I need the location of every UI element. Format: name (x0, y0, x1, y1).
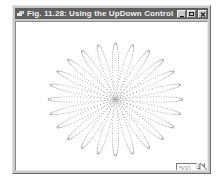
app-window: Fig. 11.28: Using the UpDown Control (12, 5, 211, 174)
window-title: Fig. 11.28: Using the UpDown Control (27, 8, 173, 19)
mouse-pointer-icon (199, 162, 208, 171)
maximize-button[interactable] (187, 10, 196, 18)
close-icon (199, 11, 208, 19)
minimize-button[interactable] (177, 10, 186, 18)
drawing-area[interactable]: 500 (15, 21, 208, 171)
close-button[interactable] (198, 10, 207, 18)
window-controls (177, 10, 207, 18)
updown-value-field[interactable]: 500 (176, 163, 197, 171)
arrow-down-icon (199, 170, 205, 171)
minimize-icon (178, 11, 187, 19)
rose-curve-drawing (16, 22, 208, 171)
maximize-icon (188, 11, 197, 19)
title-bar[interactable]: Fig. 11.28: Using the UpDown Control (15, 8, 208, 19)
app-icon[interactable] (17, 11, 24, 17)
